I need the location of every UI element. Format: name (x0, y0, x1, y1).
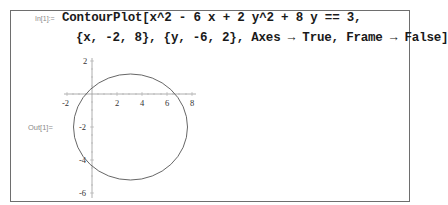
x-tick-label: 4 (140, 98, 145, 108)
x-tick-label: 6 (165, 98, 169, 108)
y-tick-label: -6 (79, 188, 86, 198)
x-tick-label: 2 (115, 98, 119, 108)
y-tick-label: 2 (83, 56, 87, 66)
y-tick-label: -2 (79, 122, 86, 132)
x-tick-label: -2 (62, 98, 69, 108)
x-tick-label: 8 (190, 98, 194, 108)
